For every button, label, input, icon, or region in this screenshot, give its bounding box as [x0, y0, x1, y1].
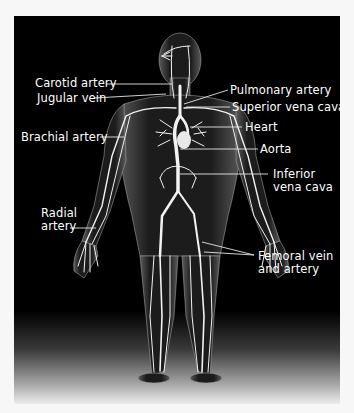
label-superior-vena-cava: Superior vena cava	[232, 101, 340, 113]
label-heart: Heart	[245, 121, 278, 133]
label-inferior-vena-cava-line2: vena cava	[273, 181, 333, 193]
label-carotid-artery: Carotid artery	[35, 77, 117, 89]
label-femoral-vein-artery-line2: and artery	[258, 263, 319, 275]
label-jugular-vein: Jugular vein	[37, 92, 106, 104]
label-radial-artery-line2: artery	[41, 220, 77, 232]
label-pulmonary-artery: Pulmonary artery	[230, 84, 331, 96]
label-femoral-vein-artery-line1: Femoral vein	[258, 250, 334, 262]
label-inferior-vena-cava-line1: Inferior	[273, 168, 315, 180]
label-brachial-artery: Brachial artery	[21, 131, 108, 143]
label-aorta: Aorta	[260, 143, 292, 155]
label-radial-artery-line1: Radial	[41, 207, 77, 219]
diagram-panel: Carotid artery Jugular vein Brachial art…	[14, 16, 340, 404]
